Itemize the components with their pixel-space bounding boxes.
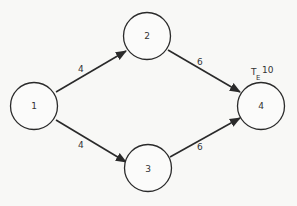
te-subscript: E [256, 74, 260, 82]
network-diagram: 4 4 6 6 1 2 3 4 T E 10 [0, 0, 297, 206]
edge-1-2: 4 [56, 51, 126, 92]
te-value: 10 [262, 65, 274, 75]
node-label-2: 2 [144, 31, 150, 41]
edge-line-1-2 [56, 51, 126, 92]
edge-label-1-2: 4 [78, 64, 84, 74]
edge-label-3-4: 6 [197, 142, 203, 152]
node-label-1: 1 [31, 101, 37, 111]
edge-2-4: 6 [168, 50, 240, 92]
edge-line-2-4 [168, 50, 240, 92]
node-label-3: 3 [145, 164, 151, 174]
node-label-4: 4 [258, 101, 264, 111]
edge-3-4: 6 [170, 118, 240, 157]
edge-line-1-3 [56, 120, 126, 162]
node-4: 4 [238, 83, 285, 130]
node-1: 1 [11, 83, 58, 130]
te-annotation: T E 10 [250, 65, 274, 82]
edge-line-3-4 [170, 118, 240, 157]
edge-label-1-3: 4 [78, 140, 84, 150]
edge-1-3: 4 [56, 120, 126, 162]
node-3: 3 [125, 145, 172, 192]
node-2: 2 [124, 13, 171, 60]
edge-label-2-4: 6 [197, 57, 203, 67]
